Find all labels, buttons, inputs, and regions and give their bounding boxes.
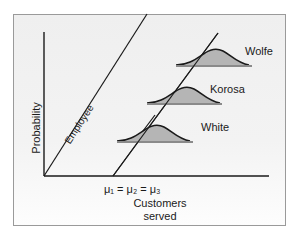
diagram-canvas: Probability Employee Wolfe Korosa White … xyxy=(0,0,300,248)
label-white: White xyxy=(201,121,229,133)
x-axis-label-line2: served xyxy=(143,210,176,222)
mean-equality-label: μ₁ = μ₂ = μ₃ xyxy=(104,183,161,195)
y-axis-label: Probability xyxy=(30,102,42,154)
label-wolfe: Wolfe xyxy=(245,45,273,57)
distribution-wolfe xyxy=(176,49,252,66)
employee-line-label: Employee xyxy=(62,102,96,146)
x-axis-label-line1: Customers xyxy=(133,197,187,209)
label-korosa: Korosa xyxy=(210,83,246,95)
